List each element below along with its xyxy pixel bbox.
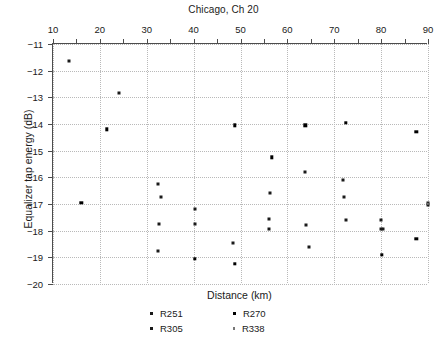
plot-area: 102030405060708090−11−12−13−14−15−16−17−… <box>52 43 427 283</box>
x-gridline <box>53 44 54 283</box>
x-axis-tick-label: 80 <box>376 24 387 35</box>
data-point <box>157 223 160 226</box>
y-gridline <box>53 204 427 205</box>
legend-label: R305 <box>160 322 183 335</box>
data-point <box>380 219 383 222</box>
x-axis-tick <box>311 39 312 44</box>
x-axis-tick <box>334 39 335 44</box>
x-axis-tick <box>381 39 382 44</box>
y-axis-tick <box>48 151 53 152</box>
scatter-plot-figure: Chicago, Ch 20 102030405060708090−11−12−… <box>0 0 447 340</box>
legend-label: R338 <box>242 322 265 335</box>
x-gridline <box>147 44 148 283</box>
legend-marker-icon <box>233 327 235 329</box>
data-point <box>232 241 235 244</box>
x-axis-tick <box>287 39 288 44</box>
x-gridline <box>100 44 101 283</box>
x-gridline <box>287 44 288 283</box>
y-axis-tick <box>48 124 53 125</box>
data-point <box>267 228 270 231</box>
y-axis-tick <box>48 204 53 205</box>
data-point <box>79 201 82 204</box>
y-axis-tick <box>48 44 53 45</box>
legend-marker-icon <box>150 312 153 315</box>
x-axis-tick <box>241 39 242 44</box>
data-point <box>427 203 429 205</box>
data-point <box>267 217 270 220</box>
data-point <box>68 60 71 63</box>
y-gridline <box>53 71 427 72</box>
y-gridline <box>53 124 427 125</box>
x-axis-tick <box>405 39 406 44</box>
data-point <box>415 237 418 240</box>
y-gridline <box>53 44 427 45</box>
legend-entry-r305[interactable]: R305 <box>150 322 233 335</box>
data-point <box>193 257 196 260</box>
x-axis-tick <box>76 39 77 44</box>
x-axis-tick-label: 30 <box>141 24 152 35</box>
legend-entry-r270[interactable]: R270 <box>233 307 316 320</box>
x-gridline <box>428 44 429 283</box>
x-gridline <box>334 44 335 283</box>
x-axis-tick <box>147 39 148 44</box>
x-axis-tick-label: 40 <box>188 24 199 35</box>
legend-marker-icon <box>150 327 153 330</box>
data-point <box>233 262 236 265</box>
y-axis-tick <box>48 177 53 178</box>
x-axis-tick-label: 10 <box>48 24 59 35</box>
data-point <box>308 245 311 248</box>
data-point <box>344 121 347 124</box>
legend-entry-r338[interactable]: R338 <box>233 322 316 335</box>
data-point <box>159 196 162 199</box>
x-gridline <box>194 44 195 283</box>
data-point <box>415 130 418 133</box>
data-point <box>156 183 159 186</box>
y-gridline <box>53 151 427 152</box>
x-axis-tick <box>358 39 359 44</box>
x-axis-tick-label: 60 <box>282 24 293 35</box>
y-gridline <box>53 231 427 232</box>
data-point <box>194 208 197 211</box>
data-point <box>380 253 383 256</box>
y-axis-tick <box>48 284 53 285</box>
data-point <box>193 223 196 226</box>
y-axis-tick-label: −11 <box>28 39 43 50</box>
data-point <box>381 228 384 231</box>
x-axis-tick <box>123 39 124 44</box>
data-point <box>304 171 307 174</box>
y-gridline <box>53 257 427 258</box>
data-point <box>305 224 308 227</box>
x-axis-tick <box>100 39 101 44</box>
data-point <box>268 192 271 195</box>
x-axis-tick-label: 50 <box>235 24 246 35</box>
y-gridline <box>53 97 427 98</box>
legend-entry-r251[interactable]: R251 <box>150 307 233 320</box>
x-axis-tick <box>53 39 54 44</box>
data-point <box>157 249 160 252</box>
x-axis-label: Distance (km) <box>52 289 427 301</box>
x-axis-tick-label: 20 <box>95 24 106 35</box>
data-point <box>303 124 306 127</box>
y-axis-tick <box>48 257 53 258</box>
chart-legend: R251R270R305R338 <box>150 307 315 335</box>
x-gridline <box>241 44 242 283</box>
x-axis-tick <box>264 39 265 44</box>
data-point <box>344 219 347 222</box>
x-axis-tick <box>217 39 218 44</box>
x-axis-tick <box>194 39 195 44</box>
y-axis-tick <box>48 97 53 98</box>
data-point <box>342 196 345 199</box>
x-gridline <box>381 44 382 283</box>
y-axis-label: Equalizer tap energy (dB) <box>22 49 34 289</box>
data-point <box>117 92 120 95</box>
y-gridline <box>53 284 427 285</box>
legend-label: R270 <box>243 307 266 320</box>
chart-title: Chicago, Ch 20 <box>0 4 447 15</box>
y-axis-tick <box>48 71 53 72</box>
legend-marker-icon <box>233 312 236 315</box>
legend-label: R251 <box>160 307 183 320</box>
data-point <box>270 156 273 159</box>
x-axis-tick-label: 90 <box>423 24 434 35</box>
y-gridline <box>53 177 427 178</box>
data-point <box>233 124 236 127</box>
